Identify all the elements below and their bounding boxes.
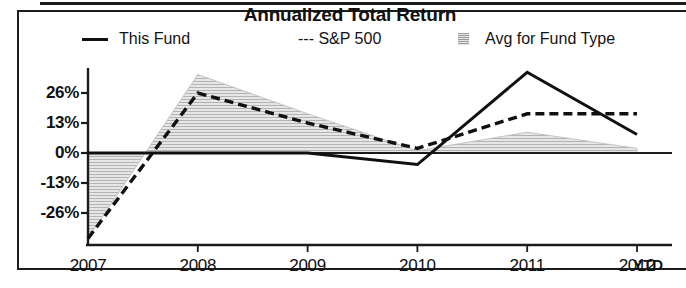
x-axis-tick-label: 2008: [179, 256, 216, 276]
y-axis-tick-label: 26%: [22, 83, 79, 103]
series-avg-for-fund-type-area: [88, 75, 637, 239]
x-axis-tick-label: 2010: [399, 256, 436, 276]
y-axis-tick-label: 0%: [22, 143, 79, 163]
plot-area: [0, 0, 686, 288]
y-axis-tick-label: -26%: [22, 203, 79, 223]
y-axis-tick-labels: 26%13%0%-13%-26%: [22, 0, 79, 288]
x-axis-tick-label: 2011: [510, 256, 545, 276]
plot-svg: [0, 0, 686, 288]
x-axis-ytd-label: YTD: [633, 256, 663, 273]
annualized-total-return-chart-card: Annualized Total Return This Fund --- S&…: [0, 0, 686, 288]
x-axis-tick-label: 2007: [70, 256, 107, 276]
y-axis-tick-label: -13%: [22, 173, 79, 193]
y-axis-tick-label: 13%: [22, 113, 79, 133]
x-axis-tick-label: 2009: [289, 256, 326, 276]
